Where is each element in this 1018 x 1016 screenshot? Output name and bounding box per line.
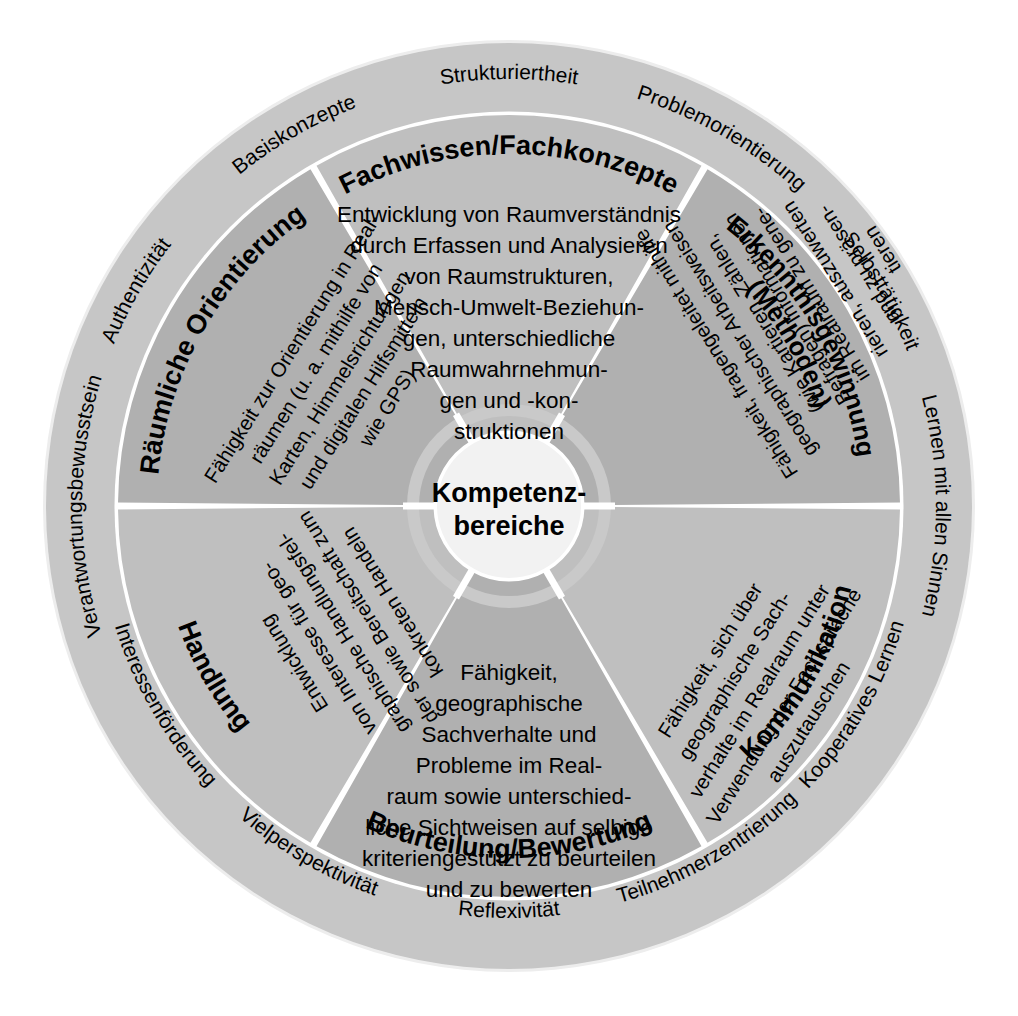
desc-line: raum sowie unterschied- xyxy=(386,784,631,809)
center-title-line2: bereiche xyxy=(453,511,564,541)
desc-line: Entwicklung von Raumverständnis xyxy=(337,202,681,227)
desc-line: struktionen xyxy=(454,419,564,444)
desc-line: von Raumstrukturen, xyxy=(405,264,614,289)
kompetenzrad-diagram: StrukturiertheitProblemorientierungSelbs… xyxy=(0,0,1018,1016)
desc-line: Sachverhalte und xyxy=(421,722,596,747)
desc-line: Raumwahrnehmun- xyxy=(410,357,608,382)
desc-line: gen, unterschiedliche xyxy=(403,326,616,351)
center-title-line1: Kompetenz- xyxy=(432,478,587,508)
desc-line: geographische xyxy=(435,691,583,716)
desc-line: gen und -kon- xyxy=(440,388,579,413)
desc-line: kriteriengestützt zu beurteilen xyxy=(362,846,656,871)
desc-line: Fähigkeit, xyxy=(460,660,558,685)
desc-line: liche Sichtweisen auf selbige xyxy=(365,815,653,840)
desc-line: durch Erfassen und Analysieren xyxy=(350,233,668,258)
desc-line: und zu bewerten xyxy=(426,877,592,902)
competence-wheel: StrukturiertheitProblemorientierungSelbs… xyxy=(0,0,1018,1016)
desc-line: Probleme im Real- xyxy=(416,753,602,778)
